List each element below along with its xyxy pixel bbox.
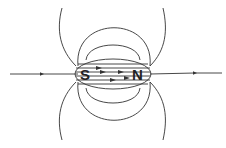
field-line-mid-top [78,28,150,66]
axis-field-line-right [150,73,222,74]
field-line-outer-top-left [59,8,76,66]
field-line-mid-bottom [78,82,150,120]
south-pole-label: S [80,66,90,83]
field-line-inner-bottom [86,88,140,103]
field-line-outer-bottom-right [150,82,165,140]
bar-magnet-field-diagram: S N [0,0,226,148]
field-line-outer-bottom-left [59,82,76,140]
field-line-outer-top-right [150,8,165,66]
north-pole-label: N [132,66,143,83]
field-line-inner-top [86,45,140,60]
